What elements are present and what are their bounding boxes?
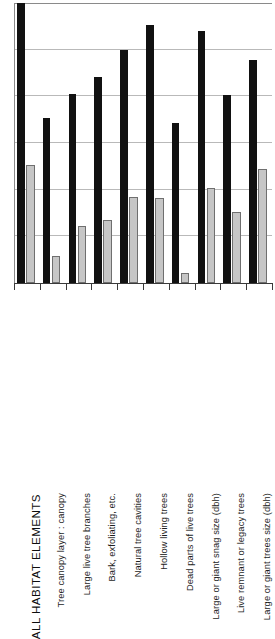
bar-dark — [69, 94, 77, 283]
x-axis-labels: ALL HABITAT ELEMENTSTree canopy layer : … — [0, 288, 275, 499]
bar-group — [66, 3, 92, 283]
bar-group — [195, 3, 221, 283]
category-label: Live remnant or legacy trees — [236, 493, 246, 613]
bar-dark — [223, 95, 231, 283]
category-label: Natural tree cavities — [133, 493, 143, 577]
category-label: Hollow living trees — [159, 493, 169, 570]
bar-dark — [249, 60, 257, 283]
category-label: Tree canopy layer : canopy — [56, 493, 66, 607]
category-label: Large or giant snag size (dbh) — [211, 493, 221, 620]
bar-dark — [43, 118, 51, 283]
bar-dark — [120, 50, 128, 283]
bar-dark — [146, 25, 154, 283]
bar-dark — [17, 3, 25, 283]
bar-light — [26, 165, 35, 283]
bar-group — [40, 3, 66, 283]
bar-light — [78, 226, 87, 283]
bar-dark — [172, 123, 180, 283]
bar-light — [52, 256, 61, 283]
category-label: Large or giant trees size (dbh) — [262, 493, 272, 620]
bar-group — [246, 3, 272, 283]
category-label: Dead parts of live trees — [185, 493, 195, 591]
bar-light — [181, 273, 190, 283]
bar-group — [220, 3, 246, 283]
bar-light — [103, 220, 112, 283]
bar-group — [169, 3, 195, 283]
bar-dark — [94, 77, 102, 283]
bar-light — [258, 169, 267, 283]
category-label: Large live tree branches — [82, 493, 92, 595]
bar-group — [117, 3, 143, 283]
bar-light — [155, 198, 164, 283]
bar-light — [232, 212, 241, 283]
category-label: Bark, exfoliating, etc. — [107, 493, 117, 582]
bar-group — [91, 3, 117, 283]
bars-layer — [14, 3, 272, 283]
category-label: ALL HABITAT ELEMENTS — [31, 494, 41, 639]
bar-group — [14, 3, 40, 283]
bar-dark — [198, 31, 206, 283]
bar-light — [129, 197, 138, 283]
bar-light — [207, 188, 216, 283]
bar-group — [143, 3, 169, 283]
